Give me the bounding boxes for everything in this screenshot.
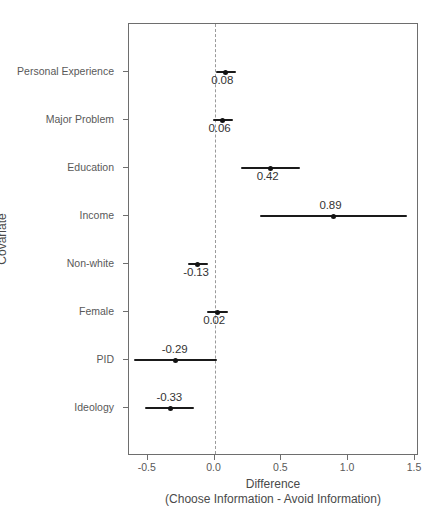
estimate-value-label: 0.89 — [319, 199, 341, 211]
y-axis-tick-label: Female — [79, 305, 114, 317]
estimate-value-label: -0.33 — [156, 391, 182, 403]
y-axis-tick-labels: Personal ExperienceMajor ProblemEducatio… — [0, 23, 122, 455]
x-axis-tick-mark — [414, 455, 415, 460]
y-axis-tick-label: PID — [96, 353, 114, 365]
estimate-value-label: 0.06 — [209, 122, 231, 134]
estimate-value-label: 0.02 — [203, 314, 225, 326]
forest-plot-figure: Covariate Personal ExperienceMajor Probl… — [0, 0, 441, 520]
y-axis-tick-mark — [123, 263, 128, 264]
y-axis-tick-label: Ideology — [74, 401, 114, 413]
y-axis-tick-mark — [123, 359, 128, 360]
y-axis-tick-mark — [123, 119, 128, 120]
x-axis-title-line1: Difference — [246, 477, 300, 491]
x-axis-tick-mark — [347, 455, 348, 460]
y-axis-tick-label: Income — [80, 209, 114, 221]
y-axis-tick-label: Personal Experience — [17, 65, 114, 77]
plot-panel: 0.080.060.420.89-0.130.02-0.29-0.33 — [128, 23, 418, 455]
x-axis-tick-mark — [214, 455, 215, 460]
estimate-value-label: 0.42 — [257, 170, 279, 182]
estimate-value-label: -0.29 — [162, 343, 188, 355]
y-axis-tick-mark — [123, 311, 128, 312]
y-axis-tick-mark — [123, 407, 128, 408]
estimate-point[interactable] — [173, 358, 178, 363]
x-axis-tick-label: 1.5 — [407, 461, 422, 473]
estimate-point[interactable] — [168, 406, 173, 411]
y-axis-tick-label: Non-white — [67, 257, 114, 269]
x-axis-title: Difference (Choose Information - Avoid I… — [128, 477, 418, 507]
x-axis-tick-mark — [147, 455, 148, 460]
y-axis-tick-mark — [123, 71, 128, 72]
y-axis-tick-label: Education — [67, 161, 114, 173]
y-axis-tick-label: Major Problem — [46, 113, 114, 125]
x-axis-tick-label: -0.5 — [138, 461, 156, 473]
x-axis-tick-label: 0.5 — [273, 461, 288, 473]
y-axis-tick-mark — [123, 167, 128, 168]
estimate-value-label: 0.08 — [211, 74, 233, 86]
x-axis-tick-label: 1.0 — [340, 461, 355, 473]
y-axis-tick-mark — [123, 215, 128, 216]
x-axis-tick-mark — [280, 455, 281, 460]
estimate-value-label: -0.13 — [183, 266, 209, 278]
estimate-point[interactable] — [331, 214, 336, 219]
zero-reference-line — [215, 24, 216, 454]
x-axis-title-line2: (Choose Information - Avoid Information) — [128, 492, 418, 507]
x-axis-tick-label: 0.0 — [206, 461, 221, 473]
